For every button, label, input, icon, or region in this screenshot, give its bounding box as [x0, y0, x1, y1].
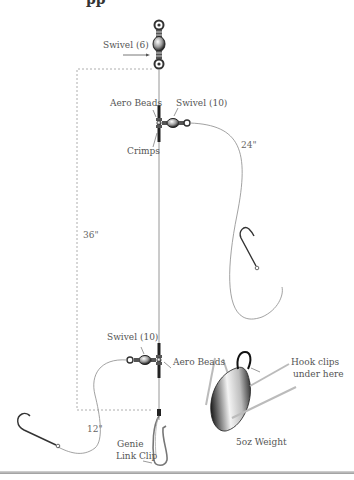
lower-hook-icon	[18, 413, 60, 447]
rig-diagram	[0, 0, 354, 480]
label-genie-clip-line1: Genie	[117, 439, 144, 449]
dimension-24-inch: 24"	[241, 140, 257, 150]
label-hook-clips-line2: under here	[293, 369, 344, 379]
label-crimps: Crimps	[127, 146, 160, 156]
label-5oz-weight: 5oz Weight	[236, 437, 287, 447]
bottom-divider	[0, 471, 354, 474]
label-aero-beads-lower: Aero Beads	[173, 357, 225, 367]
upper-hook-icon	[240, 228, 259, 270]
label-hook-clips-line1: Hook clips	[291, 357, 339, 367]
label-aero-beads-upper: Aero Beads	[110, 98, 162, 108]
label-swivel-lower: Swivel (10)	[107, 332, 158, 342]
dimension-12-inch: 12"	[87, 424, 103, 434]
label-genie-clip-line2: Link Clip	[116, 451, 157, 461]
label-swivel-top: Swivel (6)	[103, 40, 149, 50]
upper-aero-beads-crimps-icon	[156, 105, 162, 142]
dimension-36-inch: 36"	[83, 230, 99, 240]
label-swivel-upper: Swivel (10)	[176, 98, 227, 108]
swivel-top-icon	[153, 21, 165, 69]
swivel-lower-icon	[127, 356, 156, 365]
swivel-upper-icon	[162, 119, 190, 128]
lower-aero-beads-crimps-icon	[156, 343, 162, 378]
